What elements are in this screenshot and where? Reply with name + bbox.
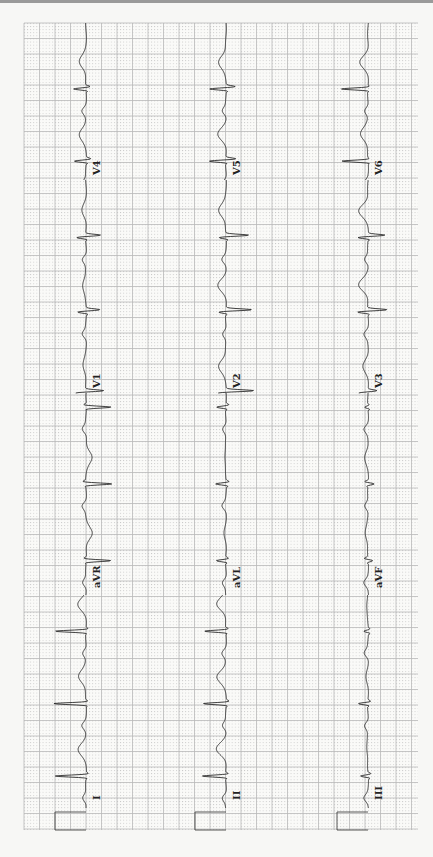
lead-label-v5: V5 xyxy=(231,160,242,176)
lead-label-v2: V2 xyxy=(231,373,242,389)
lead-label-v3: V3 xyxy=(373,373,384,389)
lead-label-ii: II xyxy=(231,790,242,800)
lead-label-iii: III xyxy=(373,786,384,800)
lead-label-v6: V6 xyxy=(373,160,384,176)
lead-label-v4: V4 xyxy=(91,160,102,176)
lead-label-avr: aVR xyxy=(91,565,102,588)
lead-label-avf: aVF xyxy=(373,567,384,588)
ecg-chart: IaVRV1V4IIaVLV2V5IIIaVFV3V6 xyxy=(0,0,433,857)
lead-label-avl: aVL xyxy=(231,567,242,588)
lead-label-i: I xyxy=(91,795,102,800)
lead-label-v1: V1 xyxy=(91,373,102,389)
